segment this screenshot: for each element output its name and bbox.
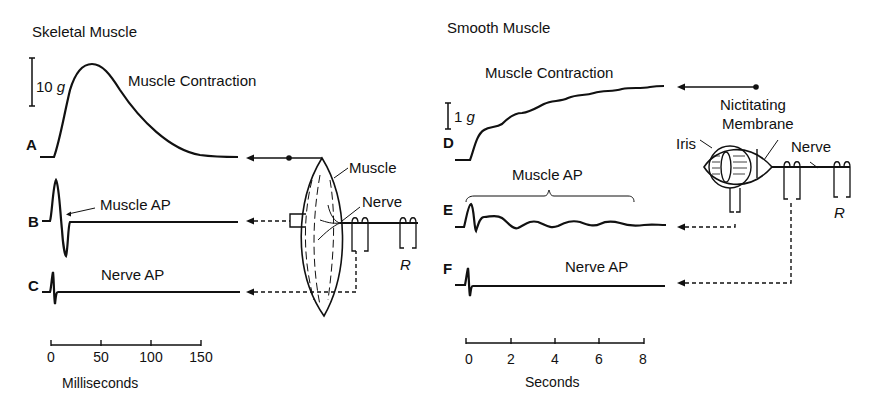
muscle-recording-diagram: Skeletal Muscle 10 g A Muscle Contractio… (0, 0, 874, 415)
row-label-d: D (443, 134, 454, 151)
svg-text:2: 2 (507, 351, 515, 367)
svg-text:8: 8 (639, 351, 647, 367)
svg-text:6: 6 (595, 351, 603, 367)
row-label-c: C (28, 277, 39, 294)
smooth-muscle-ap-bracket (466, 190, 634, 202)
skeletal-nerve-ap-label: Nerve AP (101, 266, 164, 283)
row-label-b: B (28, 213, 39, 230)
skeletal-muscle-ap-label: Muscle AP (100, 196, 171, 213)
smooth-title: Smooth Muscle (447, 19, 550, 36)
skeletal-scale-label: 10 g (36, 78, 66, 95)
skeletal-muscle-ap-trace (42, 180, 238, 256)
row-label-a: A (26, 136, 37, 153)
svg-text:150: 150 (189, 349, 213, 365)
nictitating-label: Nictitating (720, 96, 786, 113)
row-label-f: F (443, 260, 452, 277)
muscle-label: Muscle (349, 159, 397, 176)
svg-text:50: 50 (93, 349, 109, 365)
svg-text:4: 4 (551, 351, 559, 367)
smooth-contraction-trace (455, 86, 664, 160)
skeletal-nerve-label: Nerve (362, 193, 402, 210)
smooth-nerve-ap-label: Nerve AP (565, 258, 628, 275)
svg-text:0: 0 (465, 351, 473, 367)
smooth-axis-label: Seconds (525, 374, 579, 390)
smooth-stim-label: R (834, 204, 845, 221)
smooth-contraction-label: Muscle Contraction (485, 64, 613, 81)
skeletal-contraction-label: Muscle Contraction (128, 72, 256, 89)
skeletal-muscle-ap-pointer (68, 208, 95, 214)
membrane-label: Membrane (722, 115, 794, 132)
smooth-nerve-ap-trace (455, 268, 665, 296)
skeletal-stim-label: R (400, 256, 411, 273)
svg-text:100: 100 (139, 349, 163, 365)
smooth-time-axis: 0 2 4 6 8 Seconds (465, 338, 647, 390)
smooth-scale-label: 1 g (454, 108, 476, 125)
smooth-muscle-ap-trace (455, 204, 666, 231)
row-label-e: E (443, 201, 453, 218)
smooth-scale-bar: 1 g (445, 103, 476, 129)
smooth-nerve-label: Nerve (791, 138, 831, 155)
skeletal-time-axis: 0 50 100 150 Milliseconds (47, 340, 213, 391)
skeletal-title: Skeletal Muscle (32, 23, 137, 40)
svg-text:0: 0 (47, 349, 55, 365)
smooth-muscle-ap-label: Muscle AP (512, 166, 583, 183)
skeletal-axis-label: Milliseconds (62, 375, 138, 391)
iris-label: Iris (676, 135, 696, 152)
skeletal-scale-bar: 10 g (29, 58, 66, 106)
